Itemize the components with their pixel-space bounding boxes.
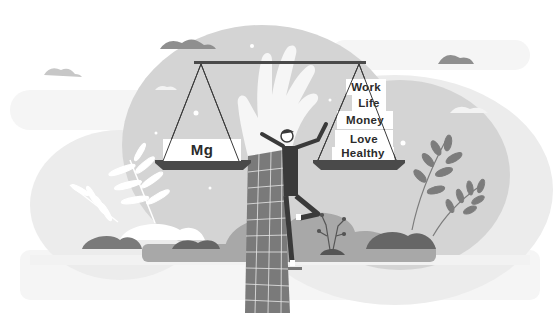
left-pan — [155, 160, 251, 170]
sparkle-icon — [250, 44, 254, 48]
right-pan-item-work: Work — [346, 79, 386, 95]
right-pan-item-life: Life — [352, 95, 386, 111]
illustration-artwork — [0, 0, 554, 313]
illustration: Mg Work Life Money Love Healthy — [0, 0, 554, 313]
right-pan — [313, 160, 405, 170]
sparkle-icon — [209, 187, 212, 190]
cloud-icon — [44, 68, 82, 77]
right-pan-item-healthy: Healthy — [332, 147, 394, 160]
right-pan-item-love: Love — [335, 130, 393, 148]
sparkle-icon — [329, 99, 332, 102]
sparkle-icon — [194, 111, 199, 116]
sparkle-icon — [155, 132, 158, 135]
right-pan-item-money: Money — [337, 111, 393, 129]
left-pan-label: Mg — [163, 139, 241, 161]
sparkle-icon — [401, 141, 406, 146]
